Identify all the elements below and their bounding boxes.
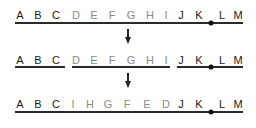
arrow-head-icon <box>125 81 131 88</box>
gene-label-original-a: A <box>16 10 23 21</box>
gene-label-broken-f: F <box>109 55 116 66</box>
centromere-dot-original <box>209 21 214 26</box>
gene-label-broken-a: A <box>16 55 23 66</box>
gene-label-inverted-m: M <box>233 99 242 110</box>
gene-label-original-f: F <box>109 10 116 21</box>
gene-label-original-l: L <box>219 10 225 21</box>
gene-label-broken-d: D <box>72 55 80 66</box>
centromere-dot-inverted <box>209 110 214 115</box>
gene-label-inverted-a: A <box>16 99 23 110</box>
gene-label-original-c: C <box>52 10 60 21</box>
centromere-dot-broken <box>209 65 214 70</box>
gene-label-broken-j: J <box>178 55 184 66</box>
gene-label-original-b: B <box>34 10 41 21</box>
chromosome-segment-broken-1 <box>72 66 170 68</box>
chromosome-segment-broken-0 <box>15 66 65 68</box>
gene-label-original-k: K <box>195 10 202 21</box>
gene-label-original-e: E <box>90 10 97 21</box>
gene-label-original-h: H <box>146 10 154 21</box>
gene-label-inverted-d: D <box>162 99 170 110</box>
arrow-head-icon <box>125 37 131 44</box>
gene-label-broken-g: G <box>127 55 136 66</box>
gene-label-original-m: M <box>233 10 242 21</box>
gene-label-inverted-l: L <box>219 99 225 110</box>
gene-label-broken-c: C <box>52 55 60 66</box>
gene-label-broken-h: H <box>146 55 154 66</box>
gene-label-broken-e: E <box>90 55 97 66</box>
gene-label-broken-m: M <box>233 55 242 66</box>
gene-label-inverted-e: E <box>143 99 150 110</box>
gene-label-inverted-j: J <box>178 99 184 110</box>
gene-label-broken-i: I <box>164 55 167 66</box>
gene-label-broken-k: K <box>195 55 202 66</box>
gene-label-inverted-f: F <box>124 99 131 110</box>
gene-label-inverted-k: K <box>195 99 202 110</box>
gene-label-original-g: G <box>127 10 136 21</box>
gene-label-inverted-c: C <box>52 99 60 110</box>
gene-label-inverted-h: H <box>86 99 94 110</box>
gene-label-inverted-i: I <box>71 99 74 110</box>
gene-label-inverted-g: G <box>104 99 113 110</box>
gene-label-inverted-b: B <box>34 99 41 110</box>
gene-label-original-j: J <box>178 10 184 21</box>
gene-label-broken-l: L <box>219 55 225 66</box>
gene-label-original-i: I <box>164 10 167 21</box>
gene-label-original-d: D <box>72 10 80 21</box>
gene-label-broken-b: B <box>34 55 41 66</box>
